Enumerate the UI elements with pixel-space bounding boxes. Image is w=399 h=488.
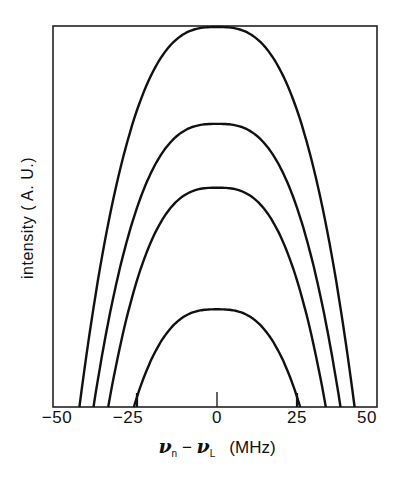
nu-symbol: ν [158, 435, 171, 457]
intensity-curves [79, 27, 354, 407]
x-tick-label: −25 [113, 408, 143, 428]
intensity-curve [94, 124, 341, 407]
y-axis-label: intensity ( A. U.) [19, 157, 37, 279]
intensity-curve [108, 188, 326, 407]
x-axis-label: νn − νL(MHz) [158, 435, 275, 459]
minus-sign: − [177, 438, 196, 457]
x-tick-label: 50 [357, 408, 377, 428]
x-tick-label: 25 [287, 408, 307, 428]
x-axis-units: (MHz) [229, 438, 275, 457]
nu-symbol: ν [197, 435, 210, 457]
plot-frame [53, 26, 377, 407]
intensity-curve [79, 27, 354, 407]
subscript-L: L [210, 448, 216, 459]
x-tick-label: 0 [212, 408, 222, 428]
x-tick-label: −50 [42, 408, 72, 428]
